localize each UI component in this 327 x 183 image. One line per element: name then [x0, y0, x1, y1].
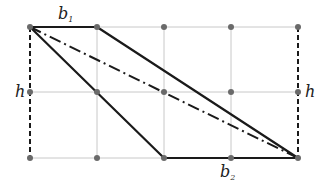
label-h-right: h	[305, 82, 315, 101]
label-h-left: h	[15, 82, 25, 101]
grid-dot	[295, 155, 301, 161]
grid-dot	[228, 89, 234, 95]
grid-dot	[161, 89, 167, 95]
label-b1-sub: 1	[68, 15, 73, 24]
grid-dot	[161, 24, 167, 30]
grid-dot	[161, 155, 167, 161]
grid-dot	[295, 24, 301, 30]
grid-dot	[228, 155, 234, 161]
grid-dot	[94, 155, 100, 161]
grid-dot	[94, 89, 100, 95]
trapezoid-diagram: b1 b2 h h	[0, 0, 327, 183]
grid-dot	[295, 89, 301, 95]
label-b2-sub: 2	[229, 173, 235, 182]
grid-dot	[228, 24, 234, 30]
label-b1: b1	[58, 4, 73, 24]
grid-dot	[27, 24, 33, 30]
grid-dot	[27, 89, 33, 95]
label-b2-main: b	[220, 162, 230, 181]
label-b1-main: b	[58, 4, 68, 23]
grid-dot	[94, 24, 100, 30]
label-b2: b2	[220, 162, 235, 182]
grid-dot	[27, 155, 33, 161]
